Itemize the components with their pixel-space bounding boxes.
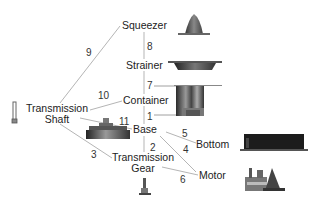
motor-part: [245, 166, 287, 194]
edge-label-10: 10: [98, 91, 109, 101]
transmission-gear-part: [138, 178, 152, 196]
edge-label-9: 9: [86, 48, 92, 58]
node-label: Base: [133, 123, 157, 135]
node-squeezer: Squeezer: [122, 20, 167, 31]
node-label: Strainer: [126, 59, 163, 71]
edge-label-8: 8: [147, 42, 153, 52]
node-label: Container: [123, 94, 169, 106]
edge-label-4: 4: [183, 145, 189, 155]
transmission-shaft-part: [10, 101, 20, 125]
node-label: Bottom: [196, 138, 229, 150]
node-strainer: Strainer: [126, 60, 163, 71]
edge-label-2: 2: [150, 143, 156, 153]
node-label-line2: Shaft: [26, 114, 88, 125]
node-bottom: Bottom: [196, 139, 229, 150]
squeezer-part: [175, 12, 215, 38]
node-transmission-shaft: Transmission Shaft: [26, 103, 88, 125]
container-part: [174, 82, 222, 118]
node-label-line2: Gear: [112, 163, 174, 174]
node-transmission-gear: Transmission Gear: [112, 152, 174, 174]
edge-label-7: 7: [147, 81, 153, 91]
node-label: Motor: [199, 169, 226, 181]
node-motor: Motor: [199, 170, 226, 181]
base-part: [86, 118, 130, 140]
node-container: Container: [123, 95, 169, 106]
edge-label-6: 6: [180, 175, 186, 185]
edge-label-5: 5: [182, 129, 188, 139]
node-label: Squeezer: [122, 19, 167, 31]
strainer-part: [168, 60, 222, 72]
bottom-part: [240, 134, 308, 154]
node-base: Base: [133, 124, 157, 135]
edge-label-3: 3: [91, 150, 97, 160]
edge-label-1: 1: [147, 112, 153, 122]
